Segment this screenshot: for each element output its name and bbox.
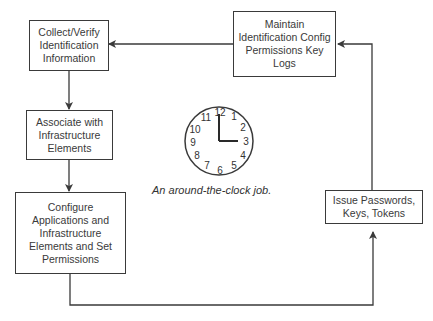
svg-text:5: 5 — [231, 160, 237, 171]
node-configure: Configure Applications and Infrastructur… — [15, 192, 126, 274]
node-associate: Associate with Infrastructure Elements — [26, 110, 113, 160]
svg-text:2: 2 — [240, 122, 246, 133]
svg-text:8: 8 — [194, 150, 200, 161]
caption: An around-the-clock job. — [152, 184, 271, 196]
node-maintain: Maintain Identification Config Permissio… — [233, 11, 336, 77]
svg-text:3: 3 — [243, 136, 249, 147]
svg-text:6: 6 — [217, 165, 223, 176]
node-collect-verify-label: Collect/Verify Identification Informatio… — [38, 26, 99, 65]
node-configure-label: Configure Applications and Infrastructur… — [29, 201, 112, 266]
clock-icon: 12 1 2 3 4 5 6 7 8 9 10 11 — [182, 104, 256, 178]
svg-text:11: 11 — [201, 112, 212, 123]
node-collect-verify: Collect/Verify Identification Informatio… — [29, 20, 109, 71]
svg-text:7: 7 — [204, 160, 210, 171]
node-issue-label: Issue Passwords, Keys, Tokens — [333, 194, 415, 220]
edge-issue-to-maintain — [338, 44, 372, 190]
svg-text:10: 10 — [189, 124, 201, 135]
svg-text:1: 1 — [231, 111, 237, 122]
svg-text:9: 9 — [190, 137, 196, 148]
node-associate-label: Associate with Infrastructure Elements — [36, 116, 103, 155]
node-maintain-label: Maintain Identification Config Permissio… — [238, 18, 330, 70]
svg-text:12: 12 — [214, 107, 226, 118]
svg-text:4: 4 — [240, 150, 246, 161]
node-issue: Issue Passwords, Keys, Tokens — [325, 190, 423, 224]
